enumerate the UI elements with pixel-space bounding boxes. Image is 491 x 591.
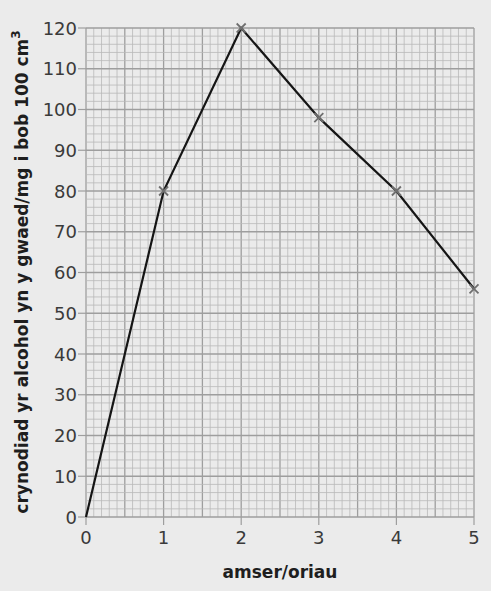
y-tick-label: 80 — [54, 181, 77, 202]
x-tick-label: 4 — [391, 527, 402, 548]
y-tick-label: 10 — [54, 466, 77, 487]
y-tick-label: 110 — [43, 58, 77, 79]
x-tick-label: 2 — [235, 527, 246, 548]
y-axis-title-main: crynodiad yr alcohol yn y gwaed/mg i bob… — [12, 39, 32, 514]
x-tick-label: 1 — [158, 527, 169, 548]
x-tick-label: 5 — [468, 527, 479, 548]
y-tick-label: 50 — [54, 303, 77, 324]
y-tick-label: 20 — [54, 425, 77, 446]
x-tick-label: 3 — [313, 527, 324, 548]
y-tick-label: 30 — [54, 384, 77, 405]
y-tick-label: 60 — [54, 262, 77, 283]
x-tick-label: 0 — [80, 527, 91, 548]
y-tick-label: 120 — [43, 18, 77, 39]
y-axis-title-group: crynodiad yr alcohol yn y gwaed/mg i bob… — [9, 30, 32, 513]
y-tick-label: 70 — [54, 221, 77, 242]
chart-container: 0102030405060708090100110120012345 amser… — [0, 0, 491, 591]
y-tick-label: 0 — [66, 507, 77, 528]
y-axis-title-superscript: 3 — [9, 30, 23, 38]
x-axis-title: amser/oriau — [223, 562, 338, 582]
y-tick-label: 100 — [43, 99, 77, 120]
y-tick-label: 40 — [54, 344, 77, 365]
y-axis-title: crynodiad yr alcohol yn y gwaed/mg i bob… — [9, 30, 32, 513]
y-tick-label: 90 — [54, 140, 77, 161]
line-chart: 0102030405060708090100110120012345 amser… — [0, 0, 491, 591]
